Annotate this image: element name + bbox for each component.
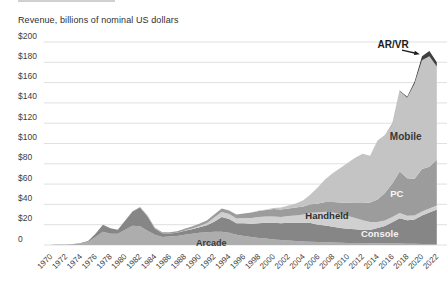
x-tick-label: 1998 [243,252,262,271]
y-tick-label: $20 [18,213,32,223]
x-tick-label: 1982 [124,252,143,271]
y-tick-label: $140 [18,91,37,101]
x-tick-label: 1970 [35,252,54,271]
y-tick-label: $200 [18,31,37,41]
y-tick-label: $80 [18,152,32,162]
x-tick-label: 1984 [139,252,158,271]
x-tick-label: 2002 [273,252,292,271]
series-label-mobile: Mobile [390,131,422,142]
arvr-callout-arrowhead [414,51,420,55]
x-tick-label: 2012 [347,252,366,271]
x-tick-label: 2006 [303,252,322,271]
series-label-arcade: Arcade [196,238,227,248]
x-tick-label: 1986 [154,252,173,271]
y-tick-label: $60 [18,173,32,183]
stacked-area-chart: 0$20$40$60$80$100$120$140$160$180$200197… [0,0,448,286]
y-tick-label: $40 [18,193,32,203]
x-tick-label: 2020 [406,252,425,271]
x-tick-label: 1992 [199,252,218,271]
x-tick-label: 1978 [95,252,114,271]
video-game-revenue-chart-panel: Revenue, billions of nominal US dollars … [0,0,448,286]
x-tick-label: 2008 [317,252,336,271]
x-tick-label: 2000 [258,252,277,271]
x-tick-label: 2016 [377,252,396,271]
y-tick-label: $120 [18,112,37,122]
series-label-console: Console [361,228,398,239]
x-tick-label: 1974 [65,252,84,271]
y-tick-label: $160 [18,71,37,81]
series-label-ar-vr: AR/VR [378,39,410,50]
y-tick-label: $100 [18,132,37,142]
series-label-handheld: Handheld [305,210,348,221]
x-tick-label: 1976 [80,252,99,271]
x-tick-label: 2018 [392,252,411,271]
x-tick-label: 1996 [228,252,247,271]
x-tick-label: 2022 [421,252,440,271]
x-tick-label: 1990 [184,252,203,271]
y-tick-label: 0 [18,234,23,244]
series-label-pc: PC [390,188,403,199]
x-tick-label: 1980 [110,252,129,271]
x-tick-label: 2004 [288,252,307,271]
x-tick-label: 2010 [332,252,351,271]
x-tick-label: 2014 [362,252,381,271]
y-tick-label: $180 [18,51,37,61]
x-tick-label: 1988 [169,252,188,271]
x-tick-label: 1972 [50,252,69,271]
x-tick-label: 1994 [214,252,233,271]
